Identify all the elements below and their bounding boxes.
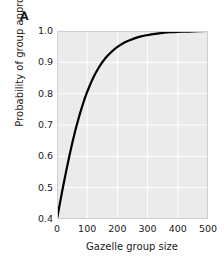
figure-panel-a: A 0.40.50.60.70.80.91.0 0100200300400500…	[0, 0, 224, 274]
x-axis-tick-labels: 0100200300400500	[0, 0, 224, 274]
y-axis-title: Probability of group approaching	[13, 0, 27, 135]
x-axis-title: Gazelle group size	[47, 241, 217, 253]
x-tick-label: 500	[188, 224, 224, 234]
y-axis-title-wrapper: Probability of group approaching	[13, 0, 27, 135]
